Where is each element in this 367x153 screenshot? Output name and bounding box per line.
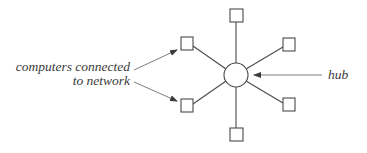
- link-lower-right: [246, 81, 283, 103]
- computer-node-bottom: [230, 128, 243, 141]
- link-lower-left: [193, 81, 226, 104]
- hub-circle: [224, 63, 248, 87]
- computer-node-lower-left: [181, 99, 193, 112]
- star-network-diagram: computers connected to network hub: [0, 0, 367, 153]
- computer-node-upper-left: [181, 37, 193, 50]
- computer-node-upper-right: [283, 38, 295, 51]
- computers-label-line2: to network: [73, 73, 131, 88]
- link-upper-right: [246, 47, 283, 69]
- computers-label-line1: computers connected: [16, 59, 131, 74]
- computer-node-top: [230, 9, 243, 22]
- link-upper-left: [193, 46, 226, 69]
- hub-label: hub: [328, 67, 349, 82]
- arrow-to-upper-left-computer: [134, 50, 177, 70]
- arrow-to-lower-left-computer: [134, 82, 177, 101]
- computer-node-lower-right: [283, 98, 295, 111]
